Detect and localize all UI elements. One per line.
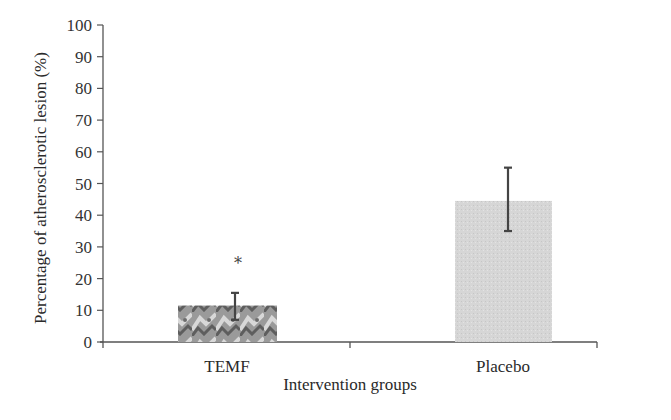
x-category-label: TEMF [204, 357, 249, 376]
y-tick-label: 0 [84, 333, 93, 352]
y-tick-label: 20 [75, 270, 92, 289]
y-tick-label: 60 [75, 143, 92, 162]
y-tick-label: 70 [75, 111, 92, 130]
y-tick-label: 10 [75, 301, 92, 320]
y-tick-label: 50 [75, 175, 92, 194]
y-axis-title: Percentage of atherosclerotic lesion (%) [31, 52, 50, 324]
x-axis-title: Intervention groups [283, 375, 417, 394]
y-tick-label: 30 [75, 238, 92, 257]
bar-placebo [455, 201, 552, 342]
y-axis-ticks: 0102030405060708090100 [67, 16, 104, 352]
svg-text:Percentage of atherosclerotic: Percentage of atherosclerotic lesion (%) [31, 52, 50, 324]
y-tick-label: 90 [75, 48, 92, 67]
x-category-label: Placebo [476, 357, 530, 376]
y-tick-label: 80 [75, 79, 92, 98]
y-tick-label: 100 [67, 16, 93, 35]
bar-chart: Percentage of atherosclerotic lesion (%)… [0, 0, 671, 420]
significance-asterisk: * [234, 254, 242, 273]
bar-temf [178, 306, 277, 342]
bars: TEMFPlacebo* [178, 168, 552, 376]
y-tick-label: 40 [75, 206, 92, 225]
